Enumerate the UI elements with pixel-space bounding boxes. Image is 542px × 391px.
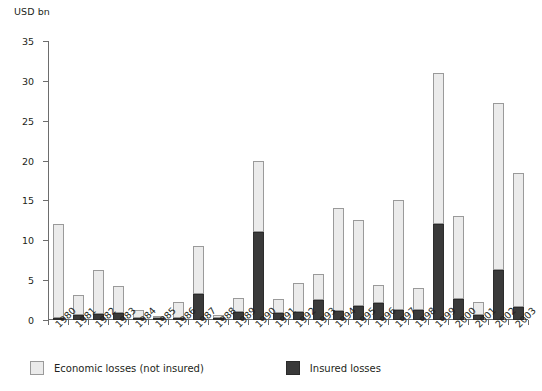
bar-segment-economic [453,216,464,299]
bar-segment-insured [253,232,264,320]
bar-segment-economic [313,274,324,300]
bar-segment-economic [513,173,524,308]
y-tick-label: 5 [12,275,34,286]
bar-segment-economic [413,288,424,310]
y-tick: 15 [43,200,48,201]
y-tick-label: 10 [12,235,34,246]
plot-area: 05101520253035 [48,41,528,320]
bar-segment-economic [293,283,304,312]
y-tick: 20 [43,161,48,162]
legend-label-insured: Insured losses [310,363,381,374]
y-tick: 30 [43,81,48,82]
y-tick: 10 [43,240,48,241]
bar-segment-economic [93,270,104,315]
bar-group [393,200,404,320]
y-tick: 25 [43,121,48,122]
y-tick: 5 [43,280,48,281]
chart-legend: Economic losses (not insured) Insured lo… [30,361,381,375]
chart-figure: USD bn 05101520253035 198019811982198319… [0,0,542,391]
bar-segment-economic [433,73,444,224]
x-axis-labels: 1980198119821983198419851986198719881989… [48,322,528,362]
y-tick-label: 15 [12,195,34,206]
bar-group [513,173,524,320]
bar-segment-economic [373,285,384,303]
legend-swatch-light-icon [30,361,44,375]
bar-segment-economic [53,224,64,318]
bar-group [433,73,444,320]
legend-item-insured: Insured losses [286,361,381,375]
legend-swatch-dark-icon [286,361,300,375]
legend-label-economic: Economic losses (not insured) [54,363,204,374]
bar-segment-economic [253,161,264,233]
bar-group [353,220,364,320]
bar-group [53,224,64,320]
legend-item-economic: Economic losses (not insured) [30,361,204,375]
bar-segment-economic [193,246,204,294]
bar-group [333,208,344,320]
y-axis-line [48,41,49,320]
y-axis-unit-label: USD bn [14,6,50,17]
bar-segment-economic [393,200,404,310]
bar-segment-insured [433,224,444,320]
y-tick: 35 [43,41,48,42]
bar-segment-economic [333,208,344,311]
bar-group [253,161,264,320]
bar-segment-economic [353,220,364,306]
y-tick-label: 0 [12,315,34,326]
bar-segment-economic [493,103,504,270]
bar-group [493,103,504,320]
y-tick-label: 35 [12,36,34,47]
y-tick-label: 25 [12,115,34,126]
y-tick-label: 20 [12,155,34,166]
y-tick-label: 30 [12,75,34,86]
bar-group [453,216,464,320]
